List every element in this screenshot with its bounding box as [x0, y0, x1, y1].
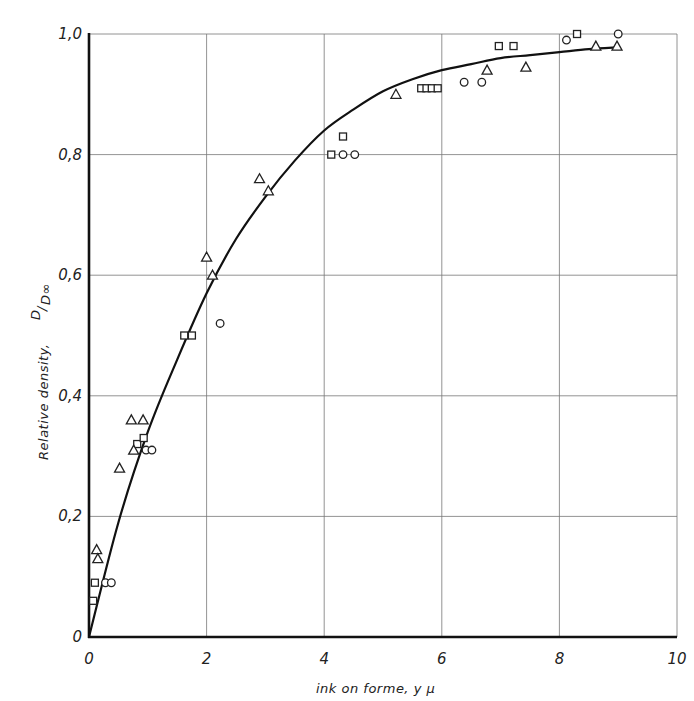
y-tick-label: 0,2 [58, 507, 82, 525]
triangle-marker [391, 89, 401, 98]
circle-marker [478, 78, 486, 86]
x-tick-label: 0 [84, 650, 94, 668]
x-tick-label: 10 [667, 650, 686, 668]
triangle-marker [521, 62, 531, 71]
y-axis-fraction-slash: / [34, 305, 49, 312]
gridlines [89, 34, 677, 637]
triangle-marker [255, 174, 265, 183]
y-axis-fraction-denominator: D∞ [38, 283, 53, 305]
y-tick-label: 0 [72, 628, 82, 646]
square-marker [510, 43, 517, 50]
y-tick-labels: 00,20,40,60,81,0 [58, 25, 82, 646]
square-marker [91, 579, 98, 586]
circle-marker [339, 151, 347, 159]
x-tick-label: 8 [555, 650, 565, 668]
y-axis-title-text: Relative density, [36, 344, 51, 460]
triangle-marker [126, 415, 136, 424]
square-marker [188, 332, 195, 339]
triangle-marker [202, 252, 212, 261]
fitted-curve-path [89, 47, 618, 637]
triangle-marker [138, 415, 148, 424]
circle-marker [351, 151, 359, 159]
triangle-marker [92, 545, 102, 554]
y-axis-title: Relative density, [36, 344, 51, 460]
x-tick-label: 4 [319, 650, 329, 668]
circle-marker [148, 446, 156, 454]
fitted-curve [89, 47, 618, 637]
triangle-marker [115, 463, 125, 472]
triangle-marker [591, 41, 601, 50]
circle-marker [563, 36, 571, 44]
square-marker [140, 435, 147, 442]
y-tick-label: 0,6 [58, 266, 82, 284]
circle-marker [108, 579, 116, 587]
square-marker [340, 133, 347, 140]
axes [88, 33, 677, 638]
square-marker [181, 332, 188, 339]
x-tick-labels: 0246810 [84, 650, 686, 668]
circle-marker [614, 30, 622, 38]
square-marker [495, 43, 502, 50]
square-marker [328, 151, 335, 158]
circle-marker [216, 320, 224, 328]
triangle-marker [482, 65, 492, 74]
y-tick-label: 0,4 [58, 387, 82, 405]
x-axis-title: ink on forme, y μ [316, 681, 435, 696]
x-tick-label: 6 [437, 650, 447, 668]
data-points [90, 30, 622, 604]
y-tick-label: 1,0 [58, 25, 82, 43]
y-axis-fraction: D / D∞ [28, 283, 53, 320]
triangle-marker [93, 554, 103, 563]
y-tick-label: 0,8 [58, 146, 82, 164]
square-marker [574, 31, 581, 38]
triangle-marker [612, 41, 622, 50]
circle-marker [460, 78, 468, 86]
x-tick-label: 2 [202, 650, 212, 668]
square-marker [434, 85, 441, 92]
square-marker [90, 597, 97, 604]
chart: 0246810 00,20,40,60,81,0 ink on forme, y… [0, 0, 694, 701]
